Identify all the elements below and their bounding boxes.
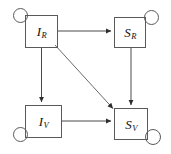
node-box-ir: IR xyxy=(25,15,58,48)
self-loop-circle-sr xyxy=(144,10,159,25)
node-label-sr-sub: R xyxy=(131,31,136,41)
node-label-iv: IV xyxy=(39,115,49,128)
node-box-sv: SV xyxy=(114,108,148,140)
node-label-ir-base: I xyxy=(37,24,41,39)
edge-ir-to-sv xyxy=(55,45,113,109)
node-box-sr: SR xyxy=(114,17,146,48)
node-label-sv-base: S xyxy=(125,117,132,132)
node-label-sr-base: S xyxy=(124,25,131,40)
node-label-iv-sub: V xyxy=(44,120,49,130)
node-label-iv-base: I xyxy=(39,114,43,129)
node-label-sv: SV xyxy=(125,118,137,131)
node-label-ir-sub: R xyxy=(42,30,47,40)
node-label-sv-sub: V xyxy=(132,123,137,133)
node-box-iv: IV xyxy=(25,105,62,138)
diagram-canvas: IR SR IV SV xyxy=(0,0,171,154)
node-label-ir: IR xyxy=(37,25,47,38)
node-label-sr: SR xyxy=(124,26,136,39)
